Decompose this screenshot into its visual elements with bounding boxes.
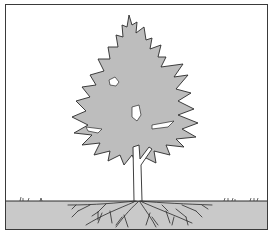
tree-canopy	[72, 15, 198, 167]
illustration-frame	[5, 4, 268, 230]
tree-illustration	[6, 5, 267, 229]
soil-area	[6, 201, 267, 229]
